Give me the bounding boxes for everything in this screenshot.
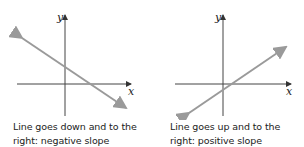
positive-slope-panel: y x Line goes up and to the right: posit… bbox=[152, 0, 304, 147]
x-axis-label: x bbox=[128, 85, 135, 98]
positive-slope-graph: y x bbox=[152, 0, 304, 120]
positive-slope-caption: Line goes up and to the right: positive … bbox=[170, 120, 280, 147]
caption-line-1: Line goes up and to the bbox=[170, 120, 280, 134]
caption-line-1: Line goes down and to the bbox=[13, 120, 137, 134]
caption-line-2: right: negative slope bbox=[13, 134, 137, 147]
caption-line-2: right: positive slope bbox=[170, 134, 280, 147]
negative-slope-line bbox=[22, 38, 126, 108]
positive-slope-line bbox=[189, 47, 286, 113]
y-axis-label: y bbox=[56, 11, 64, 24]
y-axis-label: y bbox=[214, 11, 222, 24]
negative-slope-graph: y x bbox=[0, 0, 152, 120]
negative-slope-panel: y x Line goes down and to the right: neg… bbox=[0, 0, 152, 147]
negative-slope-caption: Line goes down and to the right: negativ… bbox=[13, 120, 137, 147]
x-axis-label: x bbox=[286, 85, 293, 98]
